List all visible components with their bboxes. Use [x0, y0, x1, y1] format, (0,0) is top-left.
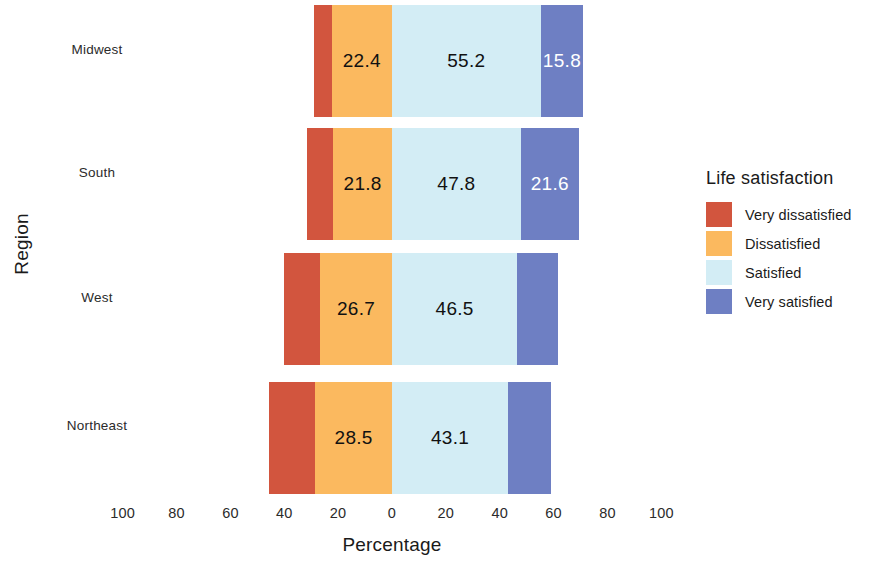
bar-row: 22.455.215.8 — [0, 5, 690, 117]
bar-segment — [517, 253, 558, 365]
x-axis-title: Percentage — [0, 534, 784, 556]
legend-item: Dissatisfied — [706, 229, 879, 258]
x-axis-tick-label: 100 — [93, 505, 153, 521]
legend-item: Very satisfied — [706, 287, 879, 316]
x-axis-tick-label: 0 — [362, 505, 422, 521]
bar-segment — [314, 5, 332, 117]
x-axis-tick-label: 100 — [631, 505, 691, 521]
legend-swatch-icon — [706, 289, 732, 314]
legend-item-label: Very dissatisfied — [745, 207, 851, 223]
x-axis-tick-label: 80 — [577, 505, 637, 521]
legend-swatch-icon — [706, 260, 732, 285]
bar-segment: 43.1 — [392, 382, 508, 494]
bar-segment: 22.4 — [332, 5, 392, 117]
bar-segment: 21.6 — [521, 128, 579, 240]
x-axis-tick-label: 60 — [524, 505, 584, 521]
legend-item-label: Very satisfied — [745, 294, 833, 310]
legend-item: Very dissatisfied — [706, 200, 879, 229]
x-axis-tick-label: 80 — [147, 505, 207, 521]
bar-row: 26.746.5 — [0, 253, 690, 365]
bar-segment: 28.5 — [315, 382, 392, 494]
legend-swatch-icon — [706, 231, 732, 256]
legend-swatch-icon — [706, 202, 732, 227]
diverging-stacked-bar-chart: Region MidwestSouthWestNortheast 22.455.… — [0, 0, 879, 567]
legend-items: Very dissatisfiedDissatisfiedSatisfiedVe… — [706, 200, 879, 316]
bar-segment — [269, 382, 315, 494]
bar-segment: 21.8 — [333, 128, 392, 240]
bar-segment: 46.5 — [392, 253, 517, 365]
x-axis: 10080604020020406080100 — [0, 505, 690, 531]
legend-item-label: Dissatisfied — [745, 236, 820, 252]
bar-segment: 26.7 — [320, 253, 392, 365]
plot-area: 22.455.215.821.847.821.626.746.528.543.1 — [0, 0, 690, 500]
bar-segment: 55.2 — [392, 5, 541, 117]
x-axis-tick-label: 20 — [416, 505, 476, 521]
x-axis-tick-label: 20 — [308, 505, 368, 521]
legend: Life satisfaction Very dissatisfiedDissa… — [706, 168, 879, 316]
bar-segment — [284, 253, 320, 365]
bar-row: 21.847.821.6 — [0, 128, 690, 240]
x-axis-tick-label: 60 — [200, 505, 260, 521]
bar-segment: 15.8 — [541, 5, 584, 117]
bar-segment: 47.8 — [392, 128, 521, 240]
legend-title: Life satisfaction — [706, 168, 879, 189]
x-axis-tick-label: 40 — [470, 505, 530, 521]
legend-item-label: Satisfied — [745, 265, 802, 281]
bar-segment — [508, 382, 551, 494]
legend-item: Satisfied — [706, 258, 879, 287]
bar-row: 28.543.1 — [0, 382, 690, 494]
x-axis-tick-label: 40 — [254, 505, 314, 521]
bar-segment — [307, 128, 333, 240]
